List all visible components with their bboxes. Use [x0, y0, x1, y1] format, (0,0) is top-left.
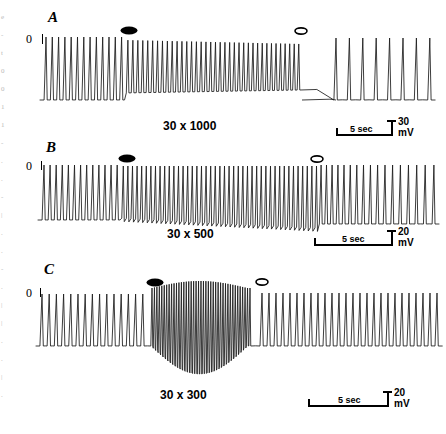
panel-b-caption: 30 x 500 — [167, 228, 214, 240]
panel-b: B 0 30 x 500 5 sec 20 mV — [0, 138, 446, 258]
panel-b-stimulus-on-marker — [118, 154, 136, 163]
panel-c-stimulus-on-marker — [146, 278, 164, 287]
panel-a-stimulus-off-marker — [294, 27, 308, 35]
panel-c-scalebar-amplitude: 20 — [394, 387, 405, 398]
panel-c-scalebar: 5 sec 20 mV — [308, 386, 423, 416]
panel-a-stimulus-on-marker — [120, 26, 138, 35]
panel-c-scalebar-unit: mV — [394, 398, 410, 409]
panel-b-scalebar: 5 sec 20 mV — [314, 226, 424, 256]
panel-a-scalebar-amplitude: 30 — [398, 116, 409, 127]
panel-b-scalebar-unit: mV — [398, 237, 414, 248]
electrophysiology-figure: e-t0011-..-|..-.||..|. A 0 30 x 1000 5 s… — [0, 0, 446, 434]
panel-c-scalebar-time: 5 sec — [338, 396, 361, 405]
panel-c-caption: 30 x 300 — [160, 389, 207, 401]
panel-b-stimulus-off-marker — [310, 155, 324, 163]
panel-a: A 0 30 x 1000 5 sec 30 mV — [0, 0, 446, 145]
panel-c-stimulus-off-marker — [255, 278, 269, 286]
panel-a-caption: 30 x 1000 — [163, 120, 216, 132]
panel-a-scalebar-time: 5 sec — [350, 125, 373, 134]
panel-b-scalebar-time: 5 sec — [342, 235, 365, 244]
panel-b-scalebar-amplitude: 20 — [398, 226, 409, 237]
panel-a-scalebar-unit: mV — [398, 127, 414, 138]
panel-c: C 0 30 x 300 5 sec 20 mV — [0, 258, 446, 434]
